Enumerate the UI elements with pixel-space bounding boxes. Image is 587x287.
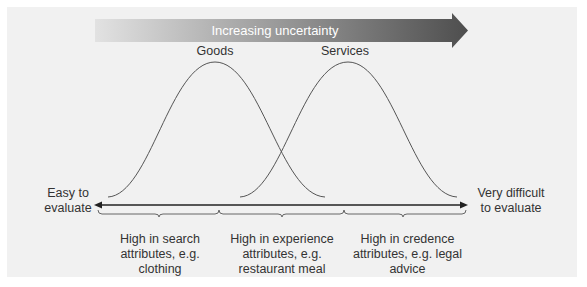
search-line3: clothing xyxy=(105,262,215,277)
evaluation-axis xyxy=(94,202,468,209)
category-braces xyxy=(98,210,466,217)
credence-line2: attributes, e.g. legal xyxy=(345,247,470,262)
experience-line3: restaurant meal xyxy=(222,262,342,277)
experience-line1: High in experience xyxy=(222,232,342,247)
goods-label: Goods xyxy=(178,44,252,59)
credence-line1: High in credence xyxy=(345,232,470,247)
search-line1: High in search xyxy=(105,232,215,247)
credence-line3: advice xyxy=(345,262,470,277)
experience-line2: attributes, e.g. xyxy=(222,247,342,262)
arrow-label: Increasing uncertainty xyxy=(95,20,455,42)
easy-to-evaluate-label: Easy to evaluate xyxy=(40,186,96,216)
difficult-line1: Very difficult xyxy=(466,186,556,201)
easy-line1: Easy to xyxy=(40,186,96,201)
search-line2: attributes, e.g. xyxy=(105,247,215,262)
easy-line2: evaluate xyxy=(40,201,96,216)
credence-attributes-label: High in credence attributes, e.g. legal … xyxy=(345,232,470,277)
very-difficult-label: Very difficult to evaluate xyxy=(466,186,556,216)
experience-attributes-label: High in experience attributes, e.g. rest… xyxy=(222,232,342,277)
search-attributes-label: High in search attributes, e.g. clothing xyxy=(105,232,215,277)
difficult-line2: to evaluate xyxy=(466,201,556,216)
services-curve xyxy=(240,62,457,197)
services-label: Services xyxy=(300,44,390,59)
